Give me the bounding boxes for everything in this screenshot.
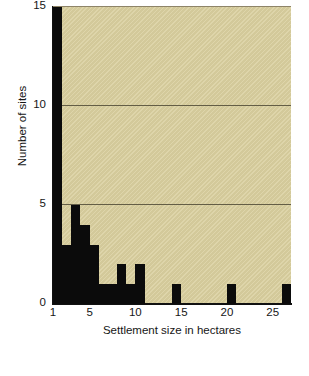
- gridline-y-5: [53, 204, 291, 205]
- histogram-bar: [71, 205, 80, 304]
- histogram-bar: [227, 284, 236, 304]
- y-tick-label-5: 5: [10, 198, 46, 209]
- histogram-bar: [90, 245, 99, 304]
- x-tick-label-15: 15: [169, 306, 193, 318]
- histogram-bar: [99, 284, 108, 304]
- histogram-bar: [62, 245, 71, 304]
- x-tick-label-25: 25: [261, 306, 285, 318]
- histogram-bar: [282, 284, 291, 304]
- histogram-bar: [126, 284, 135, 304]
- x-tick-label-5: 5: [78, 306, 102, 318]
- gridline-y-10: [53, 105, 291, 106]
- x-tick-label-20: 20: [215, 306, 239, 318]
- histogram-bar: [80, 225, 89, 304]
- x-tick-label-10: 10: [123, 306, 147, 318]
- histogram-figure: 0510151510152025 Number of sites Settlem…: [0, 0, 309, 376]
- x-axis-title: Settlement size in hectares: [53, 324, 291, 336]
- histogram-bar: [117, 264, 126, 304]
- histogram-bar: [108, 284, 117, 304]
- histogram-bar: [53, 6, 62, 304]
- y-axis-title: Number of sites: [16, 56, 28, 196]
- y-tick-label-15: 15: [10, 0, 46, 11]
- histogram-bar: [135, 264, 144, 304]
- histogram-bar: [172, 284, 181, 304]
- axis-tick-labels: 0510151510152025: [0, 0, 309, 376]
- x-tick-label-1: 1: [41, 306, 65, 318]
